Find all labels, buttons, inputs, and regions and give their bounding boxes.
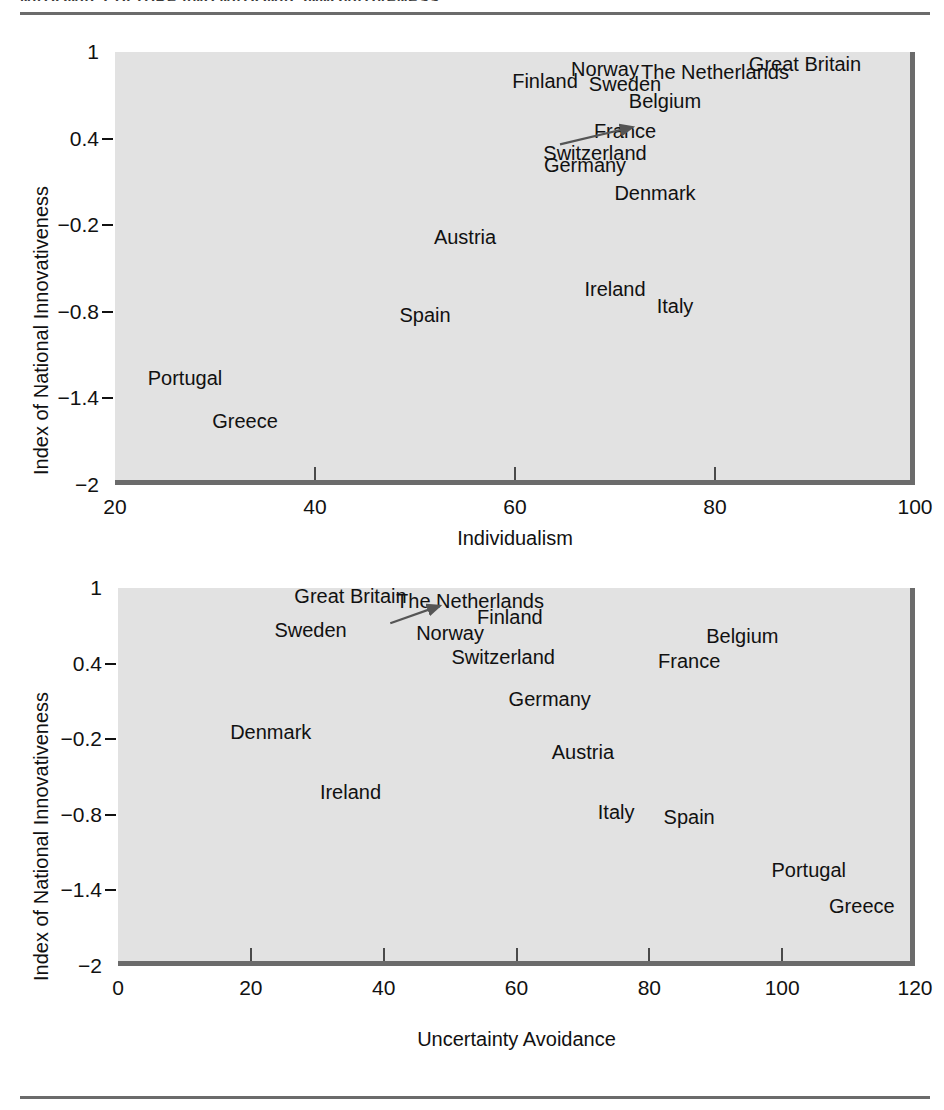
data-point-label-denmark: Denmark	[230, 722, 311, 742]
y-tick-label: −0.8	[61, 803, 118, 827]
data-point-label-italy: Italy	[598, 802, 635, 822]
y-tick-text: 0.4	[73, 652, 102, 675]
data-point-label-greece: Greece	[212, 411, 278, 431]
annotation-arrow-layer	[118, 588, 915, 966]
y-tick-mark	[102, 397, 113, 399]
x-tick-mark	[714, 467, 716, 480]
y-tick-label: −0.2	[61, 727, 118, 751]
y-tick-label: −0.8	[58, 300, 115, 324]
y-tick-label: −0.2	[58, 213, 115, 237]
figure-individualism: 10.4−0.2−0.8−1.4−220406080100Great Brita…	[0, 30, 944, 530]
data-point-label-austria: Austria	[552, 742, 614, 762]
plot-area-chart-2: 10.4−0.2−0.8−1.4−2020406080100120Great B…	[118, 588, 915, 966]
footer-rule	[20, 1096, 930, 1099]
data-point-label-the-netherlands: The Netherlands	[641, 62, 789, 82]
y-tick-mark	[105, 663, 116, 665]
figure-uncertainty-avoidance: 10.4−0.2−0.8−1.4−2020406080100120Great B…	[0, 566, 944, 1076]
page-header-text: NATIONAL CULTURE AND NATIONAL INNOVATIVE…	[20, 0, 520, 1]
data-point-label-finland: Finland	[477, 607, 543, 627]
y-tick-text: 1	[90, 576, 102, 599]
data-point-label-norway: Norway	[416, 623, 484, 643]
y-tick-mark	[102, 311, 113, 313]
data-point-label-great-britain: Great Britain	[294, 586, 406, 606]
data-point-label-spain: Spain	[664, 807, 715, 827]
y-tick-text: −0.8	[61, 803, 102, 826]
x-tick-label: 80	[703, 495, 726, 519]
x-tick-label: 100	[897, 495, 932, 519]
x-tick-mark	[250, 948, 252, 961]
y-tick-mark	[102, 138, 113, 140]
x-tick-mark	[314, 467, 316, 480]
x-tick-label: 0	[112, 976, 124, 1000]
data-point-label-ireland: Ireland	[320, 782, 381, 802]
y-tick-mark	[105, 738, 116, 740]
y-tick-text: −0.8	[58, 300, 99, 323]
data-point-label-portugal: Portugal	[771, 860, 846, 880]
y-tick-text: 1	[87, 40, 99, 63]
y-tick-label: −2	[78, 954, 118, 978]
x-tick-mark	[383, 948, 385, 961]
x-tick-mark	[648, 948, 650, 961]
x-tick-mark	[781, 948, 783, 961]
x-tick-mark	[516, 948, 518, 961]
y-axis-title-chart-2: Index of National Innovativeness	[30, 692, 53, 981]
data-point-label-greece: Greece	[829, 896, 895, 916]
data-point-label-italy: Italy	[657, 296, 694, 316]
x-tick-mark	[514, 467, 516, 480]
x-tick-label: 60	[505, 976, 528, 1000]
data-point-label-austria: Austria	[434, 227, 496, 247]
data-point-label-spain: Spain	[399, 305, 450, 325]
data-point-label-sweden: Sweden	[274, 620, 346, 640]
x-tick-label: 60	[503, 495, 526, 519]
x-tick-label: 80	[638, 976, 661, 1000]
x-tick-label: 20	[239, 976, 262, 1000]
y-tick-text: 0.4	[70, 127, 99, 150]
data-point-label-france: France	[658, 651, 720, 671]
x-tick-label: 20	[103, 495, 126, 519]
plot-area-chart-1: 10.4−0.2−0.8−1.4−220406080100Great Brita…	[115, 52, 915, 485]
data-point-label-switzerland: Switzerland	[452, 647, 555, 667]
data-point-label-france: France	[594, 121, 656, 141]
y-tick-text: −2	[75, 473, 99, 496]
y-tick-label: 0.4	[70, 127, 115, 151]
data-point-label-denmark: Denmark	[614, 183, 695, 203]
y-tick-text: −2	[78, 954, 102, 977]
y-tick-mark	[105, 889, 116, 891]
x-tick-label: 120	[897, 976, 932, 1000]
data-point-label-germany: Germany	[544, 155, 626, 175]
y-tick-label: 1	[90, 576, 118, 600]
y-tick-label: −1.4	[61, 878, 118, 902]
y-tick-text: −1.4	[61, 878, 102, 901]
data-point-label-ireland: Ireland	[584, 279, 645, 299]
y-tick-mark	[105, 814, 116, 816]
y-tick-text: −0.2	[58, 213, 99, 236]
x-axis-title-chart-2: Uncertainty Avoidance	[118, 1028, 915, 1051]
y-tick-label: −1.4	[58, 386, 115, 410]
y-tick-text: −1.4	[58, 386, 99, 409]
data-point-label-belgium: Belgium	[706, 626, 778, 646]
y-axis-title-chart-1: Index of National Innovativeness	[30, 186, 53, 475]
data-point-label-belgium: Belgium	[629, 91, 701, 111]
data-point-label-portugal: Portugal	[148, 368, 223, 388]
x-tick-label: 100	[765, 976, 800, 1000]
x-tick-label: 40	[372, 976, 395, 1000]
x-axis-title-chart-1: Individualism	[115, 527, 915, 550]
data-point-label-finland: Finland	[512, 71, 578, 91]
x-tick-label: 40	[303, 495, 326, 519]
y-tick-label: 1	[87, 40, 115, 64]
y-tick-mark	[102, 224, 113, 226]
header-rule	[20, 12, 930, 15]
y-tick-label: 0.4	[73, 652, 118, 676]
y-tick-text: −0.2	[61, 727, 102, 750]
data-point-label-germany: Germany	[509, 689, 591, 709]
y-tick-label: −2	[75, 473, 115, 497]
